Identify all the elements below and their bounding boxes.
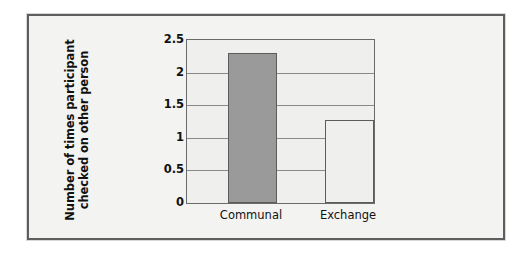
y-tick-label-0-5: 0.5 — [146, 162, 184, 176]
y-tick-label-2-5: 2.5 — [146, 32, 184, 46]
x-axis-tick-labels: Communal Exchange — [186, 208, 375, 228]
bar-chart: Number of times participant checked on o… — [29, 16, 507, 242]
figure-frame: Number of times participant checked on o… — [27, 14, 505, 240]
y-tick-label-0: 0 — [146, 195, 184, 209]
plot-area — [186, 39, 375, 204]
y-tick-label-1-5: 1.5 — [146, 97, 184, 111]
gridline-0-5 — [187, 73, 374, 74]
y-axis-title-line-2: checked on other person — [77, 51, 91, 209]
bar-exchange — [325, 120, 374, 203]
x-tick-label-exchange: Exchange — [320, 208, 376, 222]
bar-communal — [228, 53, 277, 203]
gridline-1 — [187, 105, 374, 106]
y-axis-tick-labels: 2.5 2 1.5 1 0.5 0 — [146, 39, 184, 232]
y-tick-label-1: 1 — [146, 130, 184, 144]
y-axis-title: Number of times participant checked on o… — [59, 30, 95, 230]
y-tick-label-2: 2 — [146, 65, 184, 79]
y-axis-title-line-1: Number of times participant — [63, 39, 77, 220]
x-tick-label-communal: Communal — [220, 208, 282, 222]
